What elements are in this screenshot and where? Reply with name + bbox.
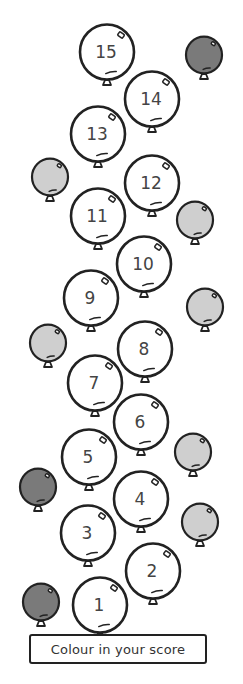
- decorative-balloon-light: [175, 434, 211, 476]
- score-balloon-5[interactable]: 5: [62, 429, 116, 490]
- numbered-balloons: 151413121110987654321: [61, 24, 180, 638]
- score-balloon-7[interactable]: 7: [68, 355, 122, 416]
- score-balloon-8[interactable]: 8: [118, 321, 172, 382]
- balloon-body: [30, 325, 66, 362]
- balloon-number: 12: [140, 173, 162, 193]
- score-balloon-9[interactable]: 9: [64, 270, 118, 331]
- balloon-number: 15: [95, 42, 117, 62]
- balloon-knot-icon: [37, 621, 45, 626]
- balloon-knot-icon: [46, 196, 54, 201]
- balloon-number: 8: [139, 339, 150, 359]
- balloon-knot-icon: [189, 471, 197, 476]
- decorative-balloon-light: [182, 504, 218, 546]
- balloon-body: [182, 504, 218, 541]
- balloon-body: [177, 202, 213, 239]
- score-balloon-2[interactable]: 2: [126, 543, 180, 604]
- decorative-balloon-dark: [23, 584, 59, 626]
- balloon-body: [186, 37, 222, 74]
- balloon-number: 11: [86, 206, 108, 226]
- balloon-body: [32, 159, 68, 196]
- colour-in-your-score-label: Colour in your score: [29, 634, 207, 664]
- balloon-body: [187, 289, 223, 326]
- score-balloon-1[interactable]: 1: [73, 577, 127, 638]
- balloon-knot-icon: [200, 74, 208, 79]
- balloon-number: 4: [135, 489, 146, 509]
- score-balloon-10[interactable]: 10: [117, 236, 171, 297]
- score-balloon-14[interactable]: 14: [125, 71, 179, 132]
- balloon-number: 9: [85, 288, 96, 308]
- balloon-number: 6: [135, 412, 146, 432]
- decorative-balloon-light: [187, 289, 223, 331]
- balloon-body: [20, 469, 56, 506]
- balloon-knot-icon: [196, 541, 204, 546]
- decorative-balloon-dark: [20, 469, 56, 511]
- balloon-number: 2: [147, 561, 158, 581]
- balloon-knot-icon: [34, 506, 42, 511]
- score-balloon-13[interactable]: 13: [71, 106, 125, 167]
- balloon-number: 3: [82, 523, 93, 543]
- balloon-knot-icon: [44, 362, 52, 367]
- balloon-body: [23, 584, 59, 621]
- balloon-number: 7: [89, 373, 100, 393]
- balloon-score-chart: 151413121110987654321: [0, 0, 243, 684]
- instruction-text: Colour in your score: [51, 642, 186, 657]
- score-balloon-4[interactable]: 4: [114, 471, 168, 532]
- balloon-knot-icon: [191, 239, 199, 244]
- score-balloon-6[interactable]: 6: [114, 394, 168, 455]
- balloon-number: 10: [132, 254, 154, 274]
- score-balloon-12[interactable]: 12: [125, 155, 179, 216]
- balloon-number: 13: [86, 124, 108, 144]
- score-balloon-15[interactable]: 15: [80, 24, 134, 85]
- decorative-balloon-light: [177, 202, 213, 244]
- balloon-number: 1: [94, 595, 105, 615]
- score-balloon-11[interactable]: 11: [71, 188, 125, 249]
- decorative-balloon-dark: [186, 37, 222, 79]
- balloon-body: [175, 434, 211, 471]
- decorative-balloon-light: [30, 325, 66, 367]
- balloon-knot-icon: [201, 326, 209, 331]
- decorative-balloon-light: [32, 159, 68, 201]
- balloon-number: 14: [140, 89, 162, 109]
- score-balloon-3[interactable]: 3: [61, 505, 115, 566]
- balloon-number: 5: [83, 447, 94, 467]
